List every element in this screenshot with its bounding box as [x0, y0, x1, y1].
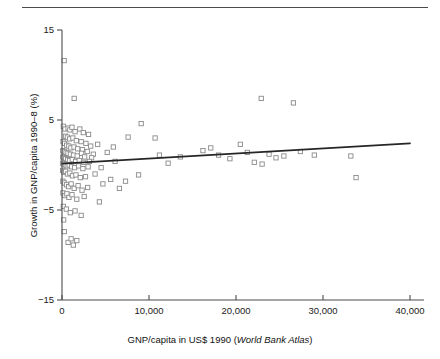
data-point	[70, 125, 74, 129]
data-point	[89, 144, 93, 148]
data-point	[69, 237, 73, 241]
data-point	[126, 135, 130, 139]
data-point	[238, 142, 242, 146]
data-point	[157, 153, 161, 157]
data-point	[117, 186, 121, 190]
data-point	[79, 139, 83, 143]
y-tick-label: 15	[43, 24, 54, 35]
data-point	[74, 139, 78, 143]
y-axis-title: Growth in GNP/capita 1990–8 (%)	[28, 36, 39, 296]
y-tick-label: 5	[49, 114, 54, 125]
data-point	[73, 130, 77, 134]
data-point	[97, 200, 101, 204]
data-markers	[60, 58, 358, 247]
data-point	[252, 160, 256, 164]
data-point	[282, 154, 286, 158]
data-point	[84, 141, 88, 145]
data-point	[153, 136, 157, 140]
x-axis-title-source: World Bank Atlas	[237, 334, 310, 345]
data-point	[136, 173, 140, 177]
data-point	[93, 172, 97, 176]
data-point	[76, 164, 80, 168]
data-point	[83, 175, 87, 179]
x-axis-title-tail: )	[309, 334, 312, 345]
data-point	[79, 213, 83, 217]
data-point	[85, 149, 89, 153]
data-point	[139, 121, 143, 125]
x-tick-label: 40,000	[395, 305, 424, 316]
plot-canvas: 155−5−15010,00020,00030,00040,000	[0, 0, 440, 359]
data-point	[109, 177, 113, 181]
data-point	[82, 155, 86, 159]
data-point	[68, 211, 72, 215]
data-point	[228, 157, 232, 161]
data-point	[74, 173, 78, 177]
data-point	[76, 184, 80, 188]
data-point	[62, 229, 66, 233]
data-point	[75, 238, 79, 242]
data-point	[166, 161, 170, 165]
data-point	[75, 154, 79, 158]
data-point	[209, 146, 213, 150]
data-point	[259, 96, 263, 100]
axes	[57, 30, 424, 300]
x-tick-label: 30,000	[308, 305, 337, 316]
data-point	[312, 153, 316, 157]
data-point	[81, 130, 85, 134]
x-axis-title: GNP/capita in US$ 1990 (World Bank Atlas…	[0, 334, 440, 345]
data-point	[75, 197, 79, 201]
scatter-figure: 155−5−15010,00020,00030,00040,000 GNP/ca…	[0, 0, 440, 359]
data-point	[123, 179, 127, 183]
data-point	[201, 148, 205, 152]
data-point	[70, 193, 74, 197]
data-point	[82, 194, 86, 198]
data-point	[80, 188, 84, 192]
data-point	[96, 142, 100, 146]
data-point	[99, 166, 103, 170]
data-point	[71, 243, 75, 247]
tick-labels: 155−5−15010,00020,00030,00040,000	[38, 24, 425, 316]
data-point	[86, 132, 90, 136]
data-point	[76, 147, 80, 151]
data-point	[291, 101, 295, 105]
x-tick-label: 20,000	[221, 305, 250, 316]
data-point	[86, 185, 90, 189]
data-point	[86, 165, 90, 169]
x-tick-label: 10,000	[134, 305, 163, 316]
data-point	[349, 154, 353, 158]
data-point	[274, 156, 278, 160]
data-point	[78, 175, 82, 179]
y-tick-label: −15	[38, 294, 54, 305]
data-point	[62, 58, 66, 62]
data-point	[73, 209, 77, 213]
data-point	[69, 182, 73, 186]
x-tick-label: 0	[59, 305, 64, 316]
y-tick-label: −5	[43, 204, 54, 215]
data-point	[354, 175, 358, 179]
data-point	[105, 150, 109, 154]
data-point	[260, 162, 264, 166]
x-axis-title-plain: GNP/capita in US$ 1990 (	[128, 334, 237, 345]
data-point	[267, 152, 271, 156]
data-point	[101, 182, 105, 186]
data-point	[111, 145, 115, 149]
data-point	[72, 96, 76, 100]
data-point	[81, 166, 85, 170]
